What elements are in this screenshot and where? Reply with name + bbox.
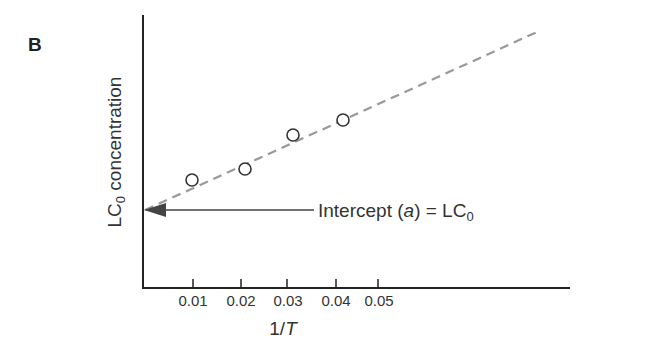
data-points [186, 114, 349, 186]
x-tick-label: 0.04 [321, 292, 350, 309]
intercept-annotation: Intercept (a) = LC0 [318, 200, 474, 224]
x-tick-label: 0.03 [273, 292, 302, 309]
x-ticks [193, 279, 378, 288]
x-tick-label: 0.05 [364, 292, 393, 309]
arrowhead-icon [144, 203, 166, 217]
data-point [337, 114, 349, 126]
data-point [287, 129, 299, 141]
x-tick-label: 0.02 [226, 292, 255, 309]
data-point [186, 174, 198, 186]
x-tick-label: 0.01 [178, 292, 207, 309]
data-point [239, 163, 251, 175]
x-axis-label: 1/T [269, 318, 296, 340]
